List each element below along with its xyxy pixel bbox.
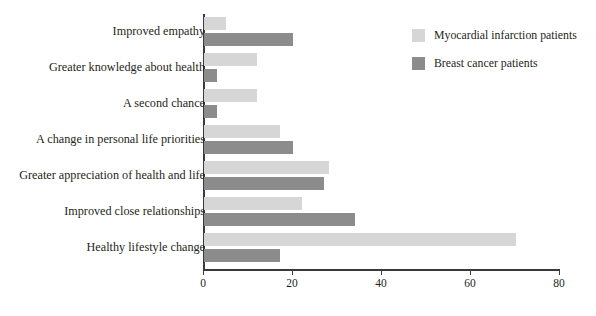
bar-myocardial-infarction (204, 233, 516, 246)
bar-myocardial-infarction (204, 197, 302, 210)
bar-breast-cancer (204, 33, 293, 46)
chart-category-row: A second chance (0, 86, 596, 122)
bar-chart: 020406080 Improved empathyGreater knowle… (0, 0, 596, 316)
x-axis-tick (292, 269, 293, 275)
x-axis-tick-label: 0 (200, 277, 206, 290)
bar-myocardial-infarction (204, 53, 257, 66)
legend-swatch-icon (412, 57, 425, 70)
legend-item-myocardial-infarction-patients: Myocardial infarction patients (412, 28, 577, 42)
category-label: A change in personal life priorities (36, 131, 205, 148)
x-axis-tick (203, 269, 204, 275)
legend-item-breast-cancer-patients: Breast cancer patients (412, 56, 577, 70)
bar-breast-cancer (204, 249, 280, 262)
category-label: A second chance (123, 95, 205, 112)
chart-category-row: Healthy lifestyle change (0, 230, 596, 266)
legend-label: Myocardial infarction patients (434, 28, 577, 42)
x-axis-tick-label: 80 (553, 277, 565, 290)
bar-breast-cancer (204, 141, 293, 154)
bar-breast-cancer (204, 177, 324, 190)
chart-category-row: Improved close relationships (0, 194, 596, 230)
bar-breast-cancer (204, 213, 355, 226)
bar-myocardial-infarction (204, 161, 329, 174)
bar-breast-cancer (204, 69, 217, 82)
x-axis-tick-label: 20 (286, 277, 298, 290)
bar-breast-cancer (204, 105, 217, 118)
chart-legend: Myocardial infarction patients Breast ca… (412, 28, 577, 84)
category-label: Improved close relationships (64, 203, 205, 220)
bar-myocardial-infarction (204, 17, 226, 30)
chart-category-row: A change in personal life priorities (0, 122, 596, 158)
category-label: Healthy lifestyle change (87, 239, 205, 256)
x-axis-tick (470, 269, 471, 275)
chart-category-row: Greater appreciation of health and life (0, 158, 596, 194)
legend-swatch-icon (412, 29, 425, 42)
x-axis-tick-label: 60 (464, 277, 476, 290)
category-label: Greater knowledge about health (49, 59, 205, 76)
x-axis-tick (559, 269, 560, 275)
legend-label: Breast cancer patients (434, 56, 538, 70)
category-label: Improved empathy (113, 23, 205, 40)
x-axis-tick-label: 40 (375, 277, 387, 290)
x-axis-tick (381, 269, 382, 275)
category-label: Greater appreciation of health and life (19, 167, 205, 184)
bar-myocardial-infarction (204, 125, 280, 138)
bar-myocardial-infarction (204, 89, 257, 102)
